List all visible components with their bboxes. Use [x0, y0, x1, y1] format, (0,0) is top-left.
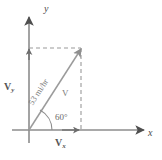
angle-arc	[40, 110, 52, 130]
y-component-subscript: y	[11, 86, 14, 94]
x-component-subscript: x	[62, 142, 66, 150]
y-axis-label: y	[44, 4, 48, 14]
x-axis-label: x	[148, 128, 152, 138]
diagram-canvas	[0, 0, 162, 160]
vector-name-label: V	[62, 89, 69, 98]
x-component-label: Vx	[55, 138, 66, 148]
y-component-label: Vy	[4, 82, 14, 92]
angle-label: 60°	[55, 113, 68, 122]
vector-diagram-figure: y x Vy Vx 53 mi/hr V 60°	[0, 0, 162, 160]
